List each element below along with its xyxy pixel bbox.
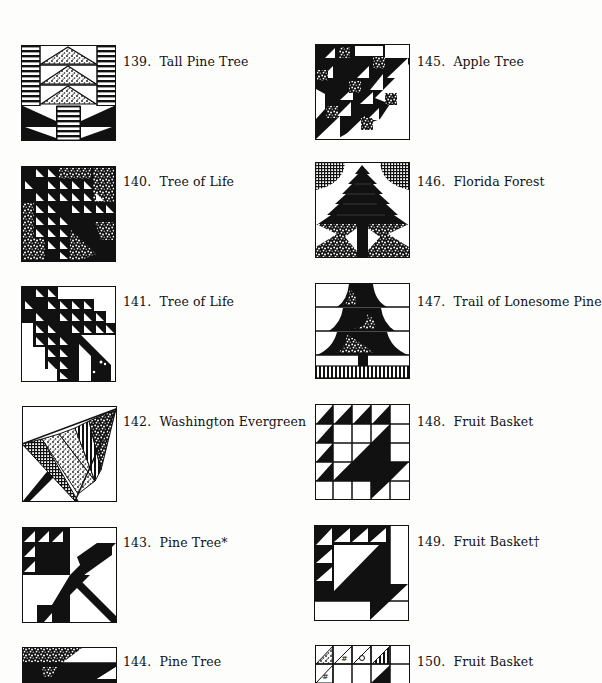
block-name: Fruit Basket [453, 654, 533, 669]
block-name: Tall Pine Tree [159, 54, 248, 69]
block-name: Pine Tree [159, 654, 221, 669]
block-caption: 140. Tree of Life [123, 174, 234, 189]
block-caption: 145. Apple Tree [417, 54, 524, 69]
block-number: 141. [123, 294, 151, 309]
block-number: 140. [123, 174, 151, 189]
block-caption: 146. Florida Forest [417, 174, 545, 189]
block-caption: 149. Fruit Basket† [417, 534, 540, 549]
block-name: Pine Tree* [159, 535, 227, 550]
block-number: 146. [417, 174, 445, 189]
fruit-basket-block [314, 525, 409, 621]
pine-tree-block [22, 527, 117, 623]
block-name: Fruit Basket† [453, 534, 539, 549]
block-name: Tree of Life [159, 174, 234, 189]
block-name: Apple Tree [453, 54, 524, 69]
block-number: 143. [123, 535, 151, 550]
block-number: 145. [417, 54, 445, 69]
block-number: 149. [417, 534, 445, 549]
block-name: Fruit Basket [453, 414, 533, 429]
block-name: Florida Forest [453, 174, 544, 189]
block-number: 148. [417, 414, 445, 429]
block-caption: 141. Tree of Life [123, 294, 234, 309]
block-caption: 142. Washington Evergreen [123, 414, 306, 429]
block-caption: 143. Pine Tree* [123, 535, 228, 550]
svg-text:#: # [341, 654, 348, 663]
block-number: 147. [417, 294, 445, 309]
tree-of-life-block [21, 166, 116, 262]
block-number: 144. [123, 654, 151, 669]
block-number: 139. [123, 54, 151, 69]
block-caption: 150. Fruit Basket [417, 654, 533, 669]
block-caption: 144. Pine Tree [123, 654, 221, 669]
fruit-basket-block [315, 404, 410, 500]
apple-tree-block [315, 44, 410, 140]
florida-forest-block [315, 162, 410, 258]
pine-tree-block [22, 647, 117, 683]
block-name: Washington Evergreen [159, 414, 306, 429]
washington-evergreen-block [22, 406, 117, 502]
svg-text:#: # [322, 672, 329, 681]
tree-of-life-block [21, 286, 116, 382]
block-name: Tree of Life [159, 294, 234, 309]
block-name: Trail of Lonesome Pine [453, 294, 601, 309]
tall-pine-tree-block [21, 45, 116, 141]
fruit-basket-block: # # [315, 645, 410, 683]
block-caption: 147. Trail of Lonesome Pine [417, 294, 602, 309]
block-caption: 139. Tall Pine Tree [123, 54, 249, 69]
block-caption: 148. Fruit Basket [417, 414, 533, 429]
trail-of-lonesome-pine-block [315, 283, 410, 379]
block-number: 142. [123, 414, 151, 429]
block-number: 150. [417, 654, 445, 669]
